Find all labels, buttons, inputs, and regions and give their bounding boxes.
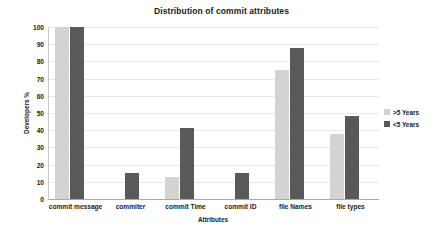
bar[interactable]: [180, 128, 194, 199]
bar[interactable]: [345, 116, 359, 199]
legend-item[interactable]: >5 Years: [384, 108, 442, 116]
bar[interactable]: [70, 27, 84, 199]
legend-item[interactable]: <5 Years: [384, 120, 442, 128]
bar[interactable]: [125, 173, 139, 199]
y-axis-tick-label: 0: [40, 196, 44, 203]
bar[interactable]: [290, 48, 304, 199]
bar[interactable]: [55, 27, 69, 199]
bar[interactable]: [235, 173, 249, 199]
y-axis-tick-label: 100: [33, 24, 44, 31]
y-axis-tick-label: 90: [37, 41, 44, 48]
bar-group: [159, 27, 214, 199]
y-axis-tick-label: 10: [37, 178, 44, 185]
y-axis-tick-label: 20: [37, 161, 44, 168]
bar-chart: Distribution of commit attributes Develo…: [0, 0, 443, 236]
y-axis-tick-label: 60: [37, 92, 44, 99]
y-axis-tick-label: 70: [37, 75, 44, 82]
legend-swatch-icon: [384, 109, 390, 115]
legend-label: <5 Years: [393, 121, 419, 128]
bar-group: [324, 27, 379, 199]
bar[interactable]: [275, 70, 289, 199]
bar-group: [269, 27, 324, 199]
y-axis-tick-label: 50: [37, 110, 44, 117]
plot-area: 0102030405060708090100: [48, 27, 379, 200]
y-axis-tick-label: 80: [37, 58, 44, 65]
bar-group: [49, 27, 104, 199]
bar-group: [104, 27, 159, 199]
legend-label: >5 Years: [393, 109, 419, 116]
bar[interactable]: [330, 134, 344, 199]
y-axis-title-wrapper: Developers %: [4, 27, 16, 199]
chart-title: Distribution of commit attributes: [0, 6, 443, 16]
x-axis-tick-label: file types: [308, 203, 393, 210]
bar-group: [214, 27, 269, 199]
x-axis-title: Attributes: [48, 216, 378, 223]
bar[interactable]: [165, 177, 179, 199]
y-axis-tick-label: 40: [37, 127, 44, 134]
legend-swatch-icon: [384, 121, 390, 127]
y-axis-tick-label: 30: [37, 144, 44, 151]
chart-legend: >5 Years<5 Years: [384, 108, 442, 132]
y-axis-title: Developers %: [23, 92, 30, 134]
